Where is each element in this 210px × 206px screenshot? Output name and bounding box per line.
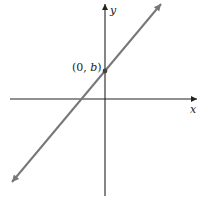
graph-line <box>12 4 161 182</box>
intercept-label-var: b <box>90 61 97 74</box>
intercept-label-close: ) <box>97 61 101 74</box>
intercept-label-open: (0, <box>72 61 90 74</box>
y-axis-label: y <box>109 4 117 17</box>
y-intercept-point <box>103 69 108 74</box>
coordinate-plane: y x (0, b) <box>0 0 210 206</box>
x-axis-label: x <box>190 103 197 116</box>
intercept-label: (0, b) <box>72 61 102 74</box>
